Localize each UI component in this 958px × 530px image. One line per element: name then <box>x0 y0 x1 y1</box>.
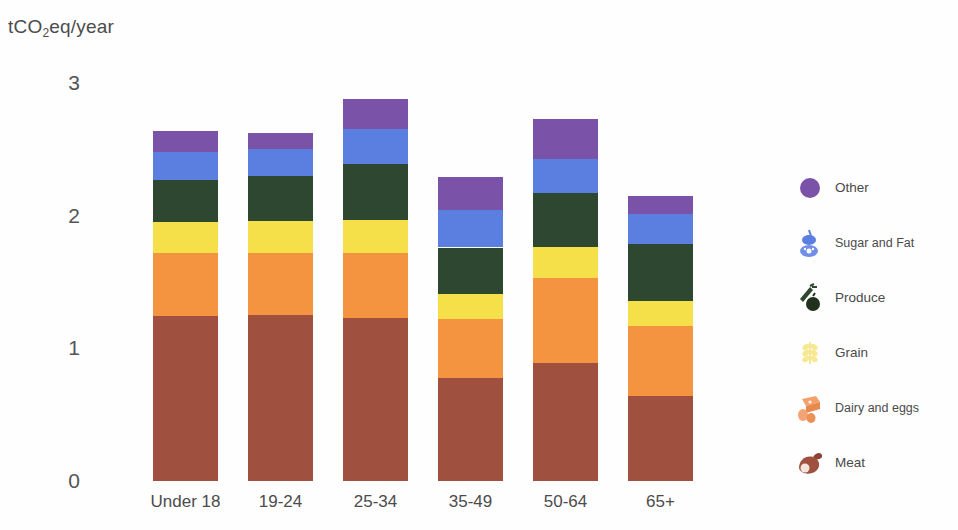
meat-icon <box>795 446 825 480</box>
segment-meat[interactable] <box>153 316 218 481</box>
segment-other[interactable] <box>628 196 693 215</box>
segment-dairy-and-eggs[interactable] <box>628 326 693 396</box>
bar-35-49[interactable] <box>438 177 503 481</box>
segment-produce[interactable] <box>343 164 408 220</box>
segment-meat[interactable] <box>628 396 693 481</box>
segment-dairy-and-eggs[interactable] <box>153 253 218 317</box>
segment-dairy-and-eggs[interactable] <box>343 253 408 318</box>
segment-sugar-and-fat[interactable] <box>533 159 598 193</box>
legend-item-produce[interactable]: Produce <box>795 270 958 325</box>
produce-icon <box>795 281 825 315</box>
segment-produce[interactable] <box>533 193 598 247</box>
segment-meat[interactable] <box>248 315 313 481</box>
stacked-bar-chart: tCO2eq/year 0123 Under 1819-2425-3435-49… <box>0 0 958 530</box>
segment-sugar-and-fat[interactable] <box>343 129 408 163</box>
legend-label: Dairy and eggs <box>835 401 919 415</box>
legend-label: Produce <box>835 290 885 305</box>
bar-25-34[interactable] <box>343 99 408 481</box>
segment-grain[interactable] <box>628 301 693 326</box>
x-tick-65-: 65+ <box>598 492 723 512</box>
segment-produce[interactable] <box>628 244 693 301</box>
segment-produce[interactable] <box>438 248 503 294</box>
segment-grain[interactable] <box>248 221 313 253</box>
segment-other[interactable] <box>438 177 503 210</box>
legend-item-meat[interactable]: Meat <box>795 435 958 490</box>
segment-dairy-and-eggs[interactable] <box>248 253 313 315</box>
segment-other[interactable] <box>533 119 598 159</box>
segment-dairy-and-eggs[interactable] <box>533 278 598 363</box>
segment-sugar-and-fat[interactable] <box>153 152 218 180</box>
legend-label: Meat <box>835 455 865 470</box>
segment-produce[interactable] <box>153 180 218 222</box>
segment-other[interactable] <box>248 133 313 149</box>
legend-item-dairy-and-eggs[interactable]: Dairy and eggs <box>795 380 958 435</box>
segment-grain[interactable] <box>343 220 408 253</box>
segment-meat[interactable] <box>533 363 598 481</box>
segment-sugar-and-fat[interactable] <box>438 210 503 247</box>
segment-other[interactable] <box>343 99 408 130</box>
segment-dairy-and-eggs[interactable] <box>438 319 503 377</box>
chart-legend: OtherSugar and FatProduceGrainDairy and … <box>795 160 958 490</box>
segment-sugar-and-fat[interactable] <box>628 214 693 243</box>
bar-65-[interactable] <box>628 196 693 481</box>
segment-grain[interactable] <box>438 294 503 319</box>
segment-sugar-and-fat[interactable] <box>248 149 313 176</box>
bar-under-18[interactable] <box>153 131 218 481</box>
legend-item-sugar-and-fat[interactable]: Sugar and Fat <box>795 215 958 270</box>
segment-grain[interactable] <box>153 222 218 253</box>
purple-circle-icon <box>795 171 825 205</box>
sugar-and-fat-icon <box>795 226 825 260</box>
legend-item-other[interactable]: Other <box>795 160 958 215</box>
legend-label: Grain <box>835 345 868 360</box>
segment-other[interactable] <box>153 131 218 152</box>
segment-produce[interactable] <box>248 176 313 221</box>
segment-meat[interactable] <box>343 318 408 481</box>
plot-area: Under 1819-2425-3435-4950-6465+ <box>0 0 760 530</box>
bar-19-24[interactable] <box>248 133 313 481</box>
grain-icon <box>795 336 825 370</box>
segment-meat[interactable] <box>438 378 503 481</box>
bar-50-64[interactable] <box>533 119 598 481</box>
segment-grain[interactable] <box>533 247 598 278</box>
legend-item-grain[interactable]: Grain <box>795 325 958 380</box>
legend-label: Sugar and Fat <box>835 236 914 250</box>
dairy-and-eggs-icon <box>795 391 825 425</box>
legend-label: Other <box>835 180 869 195</box>
